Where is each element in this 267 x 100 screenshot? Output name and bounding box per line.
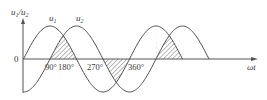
y-axis-arrow-icon (21, 18, 25, 24)
hatched-region-2 (103, 59, 130, 82)
tick-label-360: 360° (128, 62, 144, 72)
x-axis-arrow-icon (251, 57, 258, 61)
hatched-region-3 (156, 26, 183, 59)
x-axis-label: ωt (247, 62, 256, 72)
y-axis-label: u1/u2 (11, 7, 29, 18)
tick-label-180: 180° (58, 62, 74, 72)
tick-label-90: 90° (45, 62, 57, 72)
curve-label-u1: u1 (49, 13, 57, 24)
phase-diagram: u1/u2 u1 u2 0 90° 180° 270° 360° ωt (0, 0, 267, 100)
hatched-regions (50, 26, 183, 82)
origin-label: 0 (14, 54, 19, 64)
curve-label-u2: u2 (76, 13, 84, 24)
hatched-region-1 (50, 36, 77, 59)
tick-label-270: 270° (87, 62, 103, 72)
